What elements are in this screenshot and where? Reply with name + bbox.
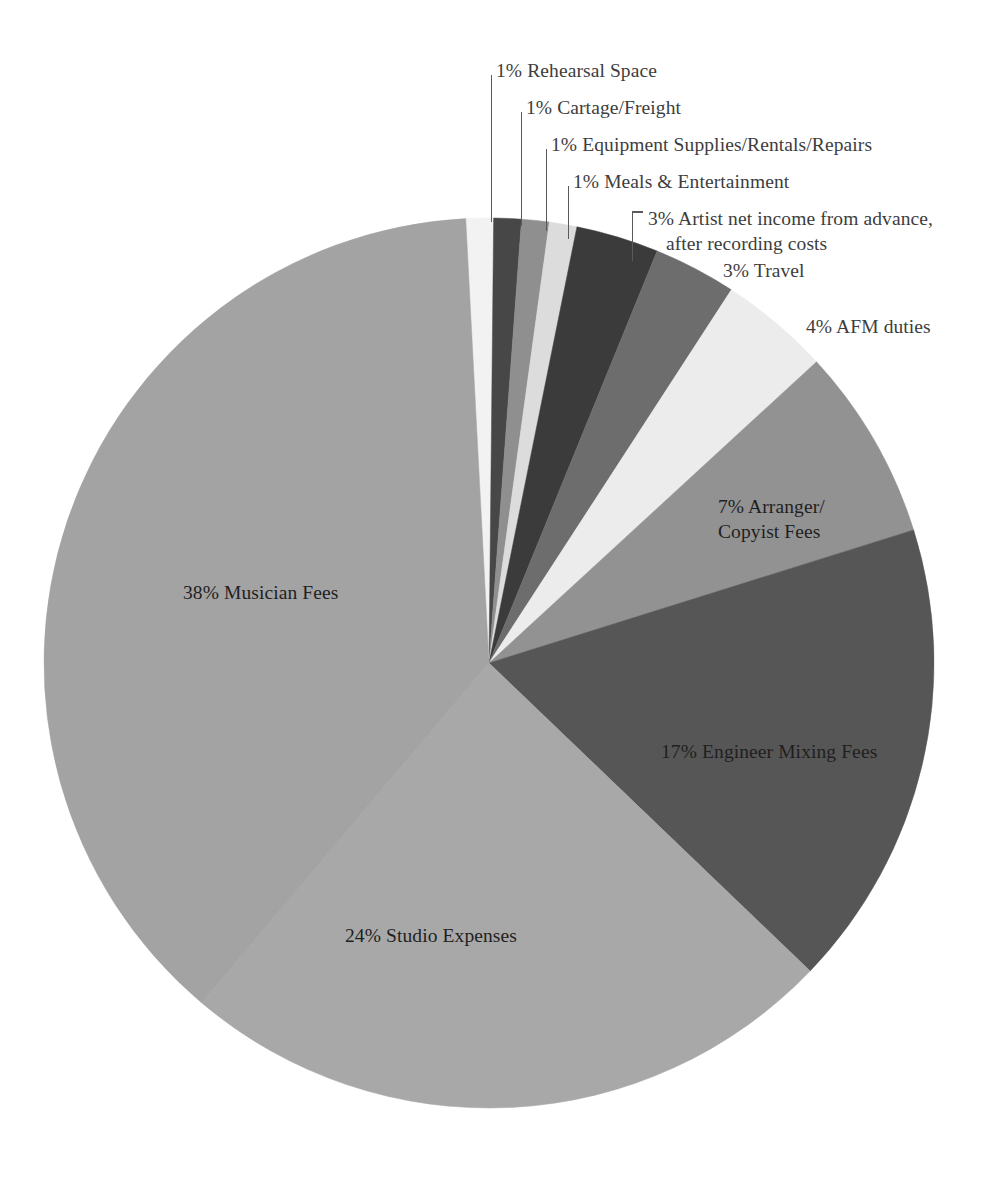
slice-label-arranger-copyist-fees-line2: Copyist Fees [718,521,821,542]
pie-chart: 1% Rehearsal Space 1% Cartage/Freight 1%… [0,0,1001,1180]
slice-label-afm-duties: 4% AFM duties [806,314,931,339]
slice-label-equipment-supplies: 1% Equipment Supplies/Rentals/Repairs [551,132,872,157]
slice-label-rehearsal-space: 1% Rehearsal Space [496,58,657,83]
slice-label-cartage-freight: 1% Cartage/Freight [526,95,681,120]
slice-label-travel: 3% Travel [723,258,805,283]
slice-label-artist-net-income-line2: after recording costs [648,231,827,256]
slice-label-engineer-mixing-fees: 17% Engineer Mixing Fees [661,739,877,764]
slice-label-musician-fees: 38% Musician Fees [183,580,339,605]
slice-label-artist-net-income-line1: 3% Artist net income from advance, [648,208,933,229]
slice-label-arranger-copyist-fees-line1: 7% Arranger/ [718,496,825,517]
slice-label-meals-entertainment: 1% Meals & Entertainment [573,169,789,194]
pie-slice-group [44,218,934,1108]
slice-label-arranger-copyist-fees: 7% Arranger/ Copyist Fees [718,494,878,544]
pie-chart-canvas [0,0,1001,1180]
slice-label-artist-net-income: 3% Artist net income from advance, after… [648,206,948,256]
slice-label-studio-expenses: 24% Studio Expenses [345,923,517,948]
